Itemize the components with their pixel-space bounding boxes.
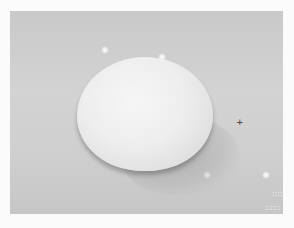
- dot-pattern-decoration: [265, 205, 281, 211]
- crosshair-mark: +: [236, 118, 244, 127]
- sparkle-decoration: [101, 46, 109, 54]
- sparkle-decoration: [262, 171, 270, 179]
- sparkle-decoration: [203, 171, 211, 179]
- egg: [77, 57, 213, 171]
- egg-photo: +: [10, 11, 283, 214]
- sparkle-decoration: [158, 53, 166, 61]
- dot-pattern-decoration: [272, 191, 283, 197]
